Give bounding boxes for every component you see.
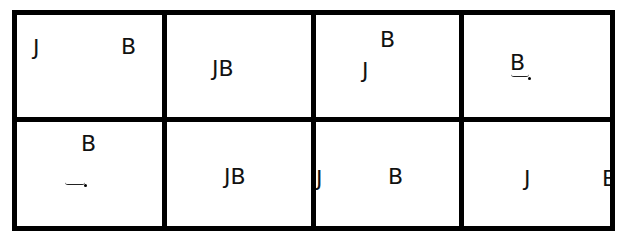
hook-dot — [528, 77, 531, 80]
letter-j: J — [316, 168, 323, 190]
hook-mark — [65, 182, 85, 185]
hook-dot — [84, 184, 87, 187]
cell-r1-c3: B J — [316, 15, 459, 117]
letters-jb: JB — [212, 58, 234, 80]
cell-r1-c4: B — [464, 15, 610, 117]
letter-b: B — [380, 29, 395, 51]
hook-mark — [511, 74, 529, 77]
cell-r2-c3: J B — [316, 122, 459, 226]
letters-jb: JB — [224, 166, 246, 188]
letter-b: B — [81, 133, 96, 155]
cell-r1-c1: J B — [17, 15, 162, 117]
letter-b: B — [510, 52, 525, 74]
letter-b-clipped: B — [602, 168, 610, 190]
letter-j: J — [33, 37, 40, 59]
cell-r2-c1: B — [17, 122, 162, 226]
letter-b: B — [388, 166, 403, 188]
cell-r2-c2: JB — [167, 122, 311, 226]
cell-r1-c2: JB — [167, 15, 311, 117]
letter-j: J — [524, 168, 531, 190]
cell-r2-c4: J B — [464, 122, 610, 226]
letter-b: B — [121, 36, 136, 58]
letter-j: J — [362, 60, 369, 82]
